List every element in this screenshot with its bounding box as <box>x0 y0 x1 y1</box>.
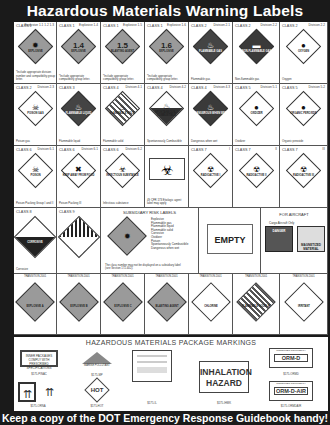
diamond-text: RADIOACTIVE II <box>239 174 273 177</box>
class-label: CLASS 3 <box>59 86 75 90</box>
transition-header: TRANSITION 2001 <box>14 275 56 278</box>
caption: Poison Packing III <box>59 202 99 205</box>
label-cell: CLASS 4 Division 4.3 ♨ DANGEROUS WHEN WE… <box>189 84 233 146</box>
class-label: CLASS 6 <box>59 148 75 152</box>
diamond-text: CHLORINE <box>194 305 228 308</box>
aircraft-header: FOR AIRCRAFT <box>261 212 327 217</box>
aircraft-labels: FOR AIRCRAFT Cargo Aircraft Only DANGER … <box>261 208 328 274</box>
hazard-symbol-icon: ✹ <box>18 41 52 50</box>
division-label: Division 4.1 <box>126 86 142 90</box>
hazard-diamond: ☣ INFECTIOUS SUBSTANCE <box>105 153 140 188</box>
hazard-diamond: EXPLOSIVE A <box>15 282 55 322</box>
diamond-text: DANGEROUS WHEN WET <box>194 112 228 115</box>
inner-packages-marking: INNER PACKAGES COMPLY WITH PRESCRIBED SP… <box>20 350 58 367</box>
footer-banner: Keep a copy of the DOT Emergency Respons… <box>0 411 330 425</box>
diamond-text: FLAMMABLE LIQUID <box>62 112 96 115</box>
transition-label-cell: TRANSITION 2001 EXPLOSIVE A <box>14 274 57 335</box>
subsidiary-item: Dangerous when wet <box>151 247 188 251</box>
transition-header: TRANSITION 2001 <box>189 275 232 278</box>
label-cell: CLASS 2 Division 2.2 ▬ NON-FLAMMABLE GAS… <box>233 22 280 84</box>
caption: *Include appropriate compatibility group… <box>59 75 99 81</box>
diamond-text: KEEP AWAY FROM FOOD <box>62 174 96 177</box>
caption: Dangerous when wet <box>191 140 231 143</box>
caption: Organic peroxide <box>282 140 322 143</box>
diamond-text: EXPLOSIVE C <box>106 305 140 308</box>
class-label: CLASS 8 <box>16 210 32 214</box>
diamond-text: BLASTING AGENT <box>150 305 184 308</box>
division-number: 1.6 <box>150 41 184 49</box>
label-cell: CLASS 4 Division 4.2 ♨ SPONTANEOUSLY COM… <box>145 84 189 146</box>
label-cell: CLASS 1 Explosive 1.1 1.2 1.3 ✹ EXPLOSIV… <box>14 22 57 84</box>
letter-marking <box>132 350 172 382</box>
diamond-text: OXIDIZER <box>239 112 273 115</box>
label-cell: ☣ 49 CFR 173 Etiologic agent label may a… <box>145 146 189 208</box>
class-label: CLASS 7 <box>282 148 298 152</box>
cargo-aircraft-label: DANGER <box>265 226 293 252</box>
diamond-text: CORROSIVE <box>18 241 52 244</box>
class-label: CLASS 7 <box>191 148 207 152</box>
division-number: 1.4 <box>62 41 96 49</box>
caption: $175-IL <box>132 401 172 405</box>
hazard-diamond: ♨ SPONTANEOUSLY COMBUSTIBLE <box>149 91 184 126</box>
label-cell: CLASS 5 Division 5.1 ● OXIDIZER Oxidizer <box>233 84 280 146</box>
empty-label: EMPTY <box>207 224 253 254</box>
triangle-icon <box>82 352 112 364</box>
hazmat-poster: Hazardous Materials Warning Labels CLASS… <box>0 0 330 425</box>
hazard-diamond: ● ORGANIC PEROXIDE <box>286 91 321 126</box>
diamond-text: POISON <box>18 174 52 177</box>
orm-d-text: ORM-D <box>274 354 308 362</box>
caption: *Include appropriate compatibility group… <box>147 75 187 81</box>
subsidiary-note: The class number may not be displayed on… <box>105 264 185 270</box>
label-cell: CLASS 6 Division 6.2 ☣ INFECTIOUS SUBSTA… <box>101 146 145 208</box>
label-cell: CLASS 1 Explosive 1.5 1.5 BLASTING AGENT… <box>101 22 145 84</box>
marine-text: MARINE POLLUTANT <box>82 364 112 367</box>
inhalation-hazard-marking: INHALATION HAZARD <box>199 361 249 393</box>
class-label: CLASS 2 <box>16 86 32 90</box>
label-cell: CLASS 3 ♨ FLAMMABLE LIQUID Flammable liq… <box>57 84 101 146</box>
hazard-symbol-icon: ☣ <box>106 165 140 174</box>
hazard-diamond: ☠ POISON GAS <box>17 91 52 126</box>
transition-header: TRANSITION 2001 <box>101 275 144 278</box>
label-cell: CLASS 2 Division 2.1 ♨ FLAMMABLE GAS Fla… <box>189 22 233 84</box>
division-label: Explosive 1.6 <box>167 24 186 28</box>
hazard-diamond: BLASTING AGENT <box>147 282 187 322</box>
caption: $175-PINAC <box>20 372 58 376</box>
division-label: Division 5.2 <box>309 86 325 90</box>
consumer-commodity: CONSUMER COMMODITY <box>270 349 312 352</box>
orm-d-air-marking: CONSUMER COMMODITY ORM-D-AIR <box>269 381 313 401</box>
diamond-text: EXPLOSIVE <box>150 49 184 52</box>
orientation-arrows-icon: ⇈ <box>18 382 36 402</box>
diamond-text: RADIOACTIVE III <box>287 174 321 177</box>
diamond-text: EXPLOSIVE A <box>18 305 52 308</box>
hazard-diamond: 1.4 EXPLOSIVE <box>61 29 96 64</box>
division-label: Division 2.3 <box>38 86 54 90</box>
label-cell: CLASS 2 Division 2.2 ● OXYGEN Oxygen <box>280 22 328 84</box>
hazard-symbol-icon: ♨ <box>194 41 228 50</box>
caption: $175-ORMD <box>269 372 313 376</box>
orm-d-marking: CONSUMER COMMODITY ORM-D <box>269 348 313 368</box>
transition-label-cell: TRANSITION 2001 BLASTING AGENT <box>145 274 189 335</box>
division-label: Explosive 1.1 1.2 1.3 <box>24 24 54 28</box>
hazard-diamond: ♨ FLAMMABLE SOLID <box>105 91 140 126</box>
subsidiary-risk-labels: SUBSIDIARY RISK LABELS ✹ ExplosiveFlamma… <box>101 208 199 274</box>
transition-header: TRANSITION 2001 <box>145 275 188 278</box>
hazard-symbol-icon: ♨ <box>194 103 228 112</box>
class-label: CLASS 5 <box>235 86 251 90</box>
class-label: CLASS 1 <box>103 24 119 28</box>
class-label: CLASS 9 <box>59 210 75 214</box>
magnetized-text: MAGNETIZED MATERIAL <box>298 243 324 251</box>
label-cell: CLASS 6 Division 6.1 ✖ KEEP AWAY FROM FO… <box>57 146 101 208</box>
class-label: CLASS 2 <box>235 24 251 28</box>
transition-header: TRANSITION 2001 <box>233 275 279 278</box>
package-markings: HAZARDOUS MATERIALS PACKAGE MARKINGS INN… <box>14 337 328 411</box>
hazard-symbol-icon: ● <box>287 103 321 112</box>
consumer-commodity: CONSUMER COMMODITY <box>270 382 312 385</box>
class-label: CLASS 5 <box>282 86 298 90</box>
diamond-text: ORGANIC PEROXIDE <box>287 112 321 115</box>
class-label: CLASS 2 <box>282 24 298 28</box>
division-label: Division 6.2 <box>126 148 142 152</box>
hazard-symbol-icon: ☠ <box>18 165 52 174</box>
hazard-diamond: ✹ EXPLOSIVE <box>17 29 52 64</box>
label-cell: CLASS 4 Division 4.1 ♨ FLAMMABLE SOLID F… <box>101 84 145 146</box>
hazard-diamond: EXPLOSIVE C <box>103 282 143 322</box>
